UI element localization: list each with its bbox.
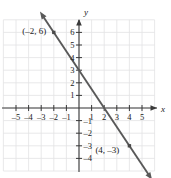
x-tick-label: 5	[140, 112, 144, 122]
data-point-marker	[128, 144, 131, 147]
x-axis-label: x	[160, 104, 165, 114]
y-tick-label: –3	[83, 141, 93, 151]
x-tick-label: –1	[61, 112, 71, 122]
x-tick-label: –2	[49, 112, 59, 122]
y-tick-label: –1	[83, 116, 93, 126]
x-tick-label: –4	[23, 112, 33, 122]
graph-svg: –5–4–3–2–112345654321–1–2–3–4xy(–2, 6)(4…	[0, 0, 171, 178]
point-label: (4, –3)	[95, 145, 119, 155]
point-label: (–2, 6)	[22, 26, 46, 36]
y-tick-label: 2	[70, 78, 74, 88]
y-axis-label: y	[83, 7, 88, 17]
y-tick-label: –2	[83, 128, 93, 138]
x-tick-label: 4	[127, 112, 132, 122]
y-tick-label: 1	[70, 90, 74, 100]
coordinate-graph: –5–4–3–2–112345654321–1–2–3–4xy(–2, 6)(4…	[0, 0, 171, 178]
x-tick-label: –5	[11, 112, 21, 122]
x-tick-label: –3	[36, 112, 46, 122]
y-tick-label: –4	[83, 153, 93, 163]
x-tick-label: 2	[102, 112, 106, 122]
x-tick-label: 3	[115, 112, 119, 122]
y-tick-label: 3	[70, 65, 74, 75]
y-tick-label: 6	[70, 27, 74, 37]
y-tick-label: 5	[70, 40, 74, 50]
data-point-marker	[52, 31, 55, 34]
